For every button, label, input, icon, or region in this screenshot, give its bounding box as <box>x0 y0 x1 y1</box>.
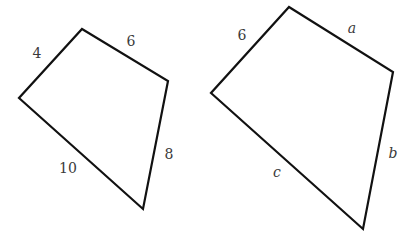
right-side-label-c: c <box>273 164 281 180</box>
left-side-label-bottom: 10 <box>59 160 77 176</box>
right-side-label-a: a <box>348 20 356 36</box>
right-side-label-top-left: 6 <box>238 27 247 43</box>
left-side-label-right: 8 <box>165 146 174 162</box>
left-side-label-top-left: 4 <box>33 45 42 61</box>
left-side-label-top-right: 6 <box>127 33 136 49</box>
right-side-label-b: b <box>389 145 398 161</box>
quadrilaterals-diagram: 4 6 8 10 6 a b c <box>0 0 405 235</box>
